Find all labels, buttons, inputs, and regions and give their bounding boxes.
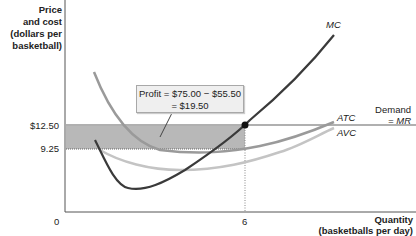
- atc-label: ATC: [337, 112, 355, 123]
- demand-label-line: Demand: [375, 104, 411, 115]
- y-axis-label-line: Price: [10, 4, 62, 16]
- demand-label-line: = MR: [375, 115, 411, 126]
- y-tick-high: $12.50: [30, 120, 59, 131]
- x-tick-origin: 0: [54, 216, 59, 227]
- demand-label: Demand = MR: [375, 104, 411, 126]
- x-axis-label-line: Quantity: [318, 214, 413, 225]
- x-axis-label-line: (basketballs per day): [318, 225, 413, 236]
- y-axis-label-line: basketball): [10, 40, 62, 52]
- x-axis-label: Quantity (basketballs per day): [318, 214, 413, 236]
- profit-callout-line2: = $19.50: [137, 100, 243, 112]
- y-axis-label-line: (dollars per: [10, 28, 62, 40]
- y-axis-label-line: and cost: [10, 16, 62, 28]
- demand-mr-text: = MR: [388, 115, 411, 126]
- profit-callout-line1: Profit = $75.00 − $55.50: [137, 88, 243, 100]
- profit-callout: Profit = $75.00 − $55.50 = $19.50: [136, 85, 244, 113]
- equilibrium-point: [242, 122, 249, 129]
- avc-label: AVC: [337, 127, 356, 138]
- y-axis-label: Price and cost (dollars per basketball): [10, 4, 62, 52]
- x-tick-6: 6: [242, 216, 247, 227]
- y-tick-low: 9.25: [41, 143, 60, 154]
- mc-label: MC: [326, 19, 341, 30]
